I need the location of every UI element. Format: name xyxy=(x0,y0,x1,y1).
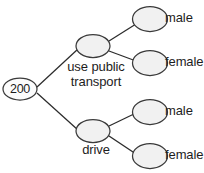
root-node-value: 200 xyxy=(3,82,37,97)
edge-drive-to-male xyxy=(109,113,136,126)
branch-label-public-transport: use public transport xyxy=(41,60,151,89)
node-public-transport[interactable] xyxy=(76,35,110,58)
leaf-label-female-public-transport: female xyxy=(165,55,203,70)
branch-label-public-transport-line1: use public xyxy=(41,60,151,75)
leaf-label-male-public-transport: male xyxy=(165,11,193,26)
leaf-label-female-drive: female xyxy=(165,148,203,163)
leaf-label-male-drive: male xyxy=(165,104,193,119)
tree-diagram-canvas: 200 use public transport drive male fema… xyxy=(0,0,204,173)
node-leaf-male-public-transport[interactable] xyxy=(133,7,168,32)
edge-public-transport-to-male xyxy=(109,24,136,41)
node-leaf-male-drive[interactable] xyxy=(133,100,168,125)
node-drive[interactable] xyxy=(76,120,110,143)
edge-root-to-drive xyxy=(37,93,78,130)
branch-label-drive: drive xyxy=(41,143,151,158)
branch-label-public-transport-line2: transport xyxy=(41,75,151,90)
